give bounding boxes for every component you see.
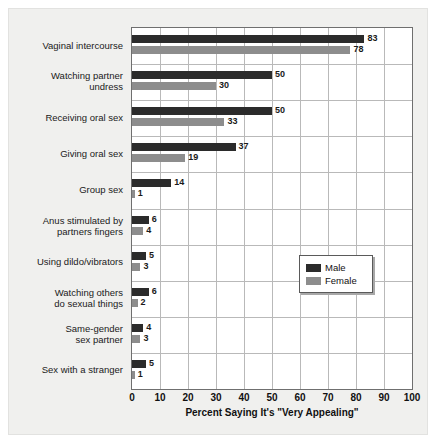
bar-male	[132, 252, 146, 260]
x-tick-label: 70	[322, 392, 333, 403]
bar-female	[132, 227, 143, 235]
bar-female	[132, 82, 216, 90]
bar-groups: 83785030503337191416453624351	[132, 28, 412, 389]
category-label: Same-gender sex partner	[9, 323, 123, 345]
category-axis-labels: Vaginal intercourseWatching partner undr…	[9, 27, 127, 390]
category-label: Anus stimulated by partners fingers	[9, 215, 123, 237]
bar-group: 5033	[132, 100, 412, 136]
bar-value-label: 50	[275, 106, 285, 114]
x-tick-label: 0	[129, 392, 135, 403]
bar-male	[132, 179, 171, 187]
bar-group: 51	[132, 353, 412, 389]
plot-area: 83785030503337191416453624351	[131, 27, 413, 390]
bar-male	[132, 324, 143, 332]
bar-value-label: 19	[188, 153, 198, 161]
legend-item: Male	[306, 261, 366, 274]
bar-group: 5030	[132, 64, 412, 100]
category-label: Giving oral sex	[9, 148, 123, 159]
category-label: Group sex	[9, 184, 123, 195]
bar-group: 3719	[132, 136, 412, 172]
legend-item: Female	[306, 274, 366, 287]
bar-female	[132, 118, 224, 126]
chart-figure: Vaginal intercourseWatching partner undr…	[8, 8, 428, 435]
x-axis-title: Percent Saying It's "Very Appealing"	[131, 407, 413, 418]
bar-value-label: 37	[239, 142, 249, 150]
x-tick-label: 40	[238, 392, 249, 403]
x-tick-label: 30	[210, 392, 221, 403]
legend-label: Male	[325, 262, 346, 273]
x-tick-label: 80	[350, 392, 361, 403]
bar-value-label: 33	[227, 117, 237, 125]
bar-male	[132, 35, 364, 43]
category-label: Using dildo/vibrators	[9, 256, 123, 267]
category-label: Receiving oral sex	[9, 112, 123, 123]
bar-value-label: 3	[143, 262, 148, 270]
bar-male	[132, 216, 149, 224]
bar-female	[132, 263, 140, 271]
bar-value-label: 14	[174, 178, 184, 186]
bar-male	[132, 71, 272, 79]
bar-value-label: 1	[138, 189, 143, 197]
bar-male	[132, 107, 272, 115]
bar-value-label: 5	[149, 251, 154, 259]
bar-group: 64	[132, 209, 412, 245]
bar-female	[132, 371, 135, 379]
bar-value-label: 6	[152, 287, 157, 295]
category-label: Sex with a stranger	[9, 364, 123, 375]
category-label: Vaginal intercourse	[9, 40, 123, 51]
bar-value-label: 83	[367, 34, 377, 42]
bar-group: 141	[132, 172, 412, 208]
x-tick-label: 90	[378, 392, 389, 403]
bar-value-label: 50	[275, 70, 285, 78]
bar-female	[132, 154, 185, 162]
bar-value-label: 2	[141, 298, 146, 306]
bar-value-label: 78	[353, 45, 363, 53]
bar-value-label: 6	[152, 215, 157, 223]
x-tick-label: 100	[404, 392, 421, 403]
bar-value-label: 4	[146, 226, 151, 234]
bar-value-label: 4	[146, 323, 151, 331]
bar-group: 8378	[132, 28, 412, 64]
bar-female	[132, 190, 135, 198]
legend-label: Female	[325, 275, 357, 286]
bar-value-label: 5	[149, 359, 154, 367]
bar-value-label: 30	[219, 81, 229, 89]
legend-swatch-female	[306, 277, 321, 285]
bar-group: 43	[132, 317, 412, 353]
bar-value-label: 1	[138, 370, 143, 378]
x-tick-label: 50	[266, 392, 277, 403]
x-tick-label: 20	[182, 392, 193, 403]
x-axis-ticks: 0102030405060708090100	[131, 392, 413, 406]
bar-value-label: 3	[143, 334, 148, 342]
bar-female	[132, 46, 350, 54]
x-tick-label: 60	[294, 392, 305, 403]
bar-female	[132, 335, 140, 343]
bar-male	[132, 360, 146, 368]
legend-swatch-male	[306, 264, 321, 272]
category-label: Watching others do sexual things	[9, 287, 123, 309]
x-tick-label: 10	[154, 392, 165, 403]
bar-female	[132, 299, 138, 307]
bar-male	[132, 288, 149, 296]
category-label: Watching partner undress	[9, 70, 123, 92]
chart-legend: MaleFemale	[299, 255, 373, 293]
bar-male	[132, 143, 236, 151]
